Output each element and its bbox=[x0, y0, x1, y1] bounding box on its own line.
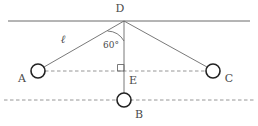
node-circle-A bbox=[31, 64, 45, 78]
label-D: D bbox=[116, 2, 125, 15]
label-B: B bbox=[135, 108, 143, 121]
label-A: A bbox=[17, 72, 27, 85]
diagram-canvas: D A C B E ℓ 60° bbox=[0, 0, 258, 126]
label-E: E bbox=[129, 74, 137, 87]
right-angle-marker bbox=[118, 65, 125, 72]
label-angle-60: 60° bbox=[103, 40, 119, 50]
label-C: C bbox=[225, 72, 233, 85]
segment-DC bbox=[124, 21, 207, 67]
node-circle-B bbox=[117, 93, 131, 107]
node-circle-C bbox=[206, 64, 220, 78]
label-length-ell: ℓ bbox=[61, 33, 66, 46]
geometry-diagram: D A C B E ℓ 60° bbox=[0, 0, 258, 126]
